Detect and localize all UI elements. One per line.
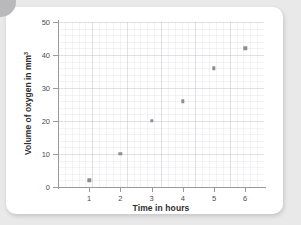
x-tick-3 xyxy=(152,187,153,192)
x-tick-label-6: 6 xyxy=(238,195,252,203)
y-axis-title-text: Volume of oxygen in mm xyxy=(23,55,33,155)
x-tick-5 xyxy=(214,187,215,192)
y-axis-line xyxy=(58,20,59,189)
chart-card: 0 10 20 30 40 50 1 2 3 4 5 6 xyxy=(6,7,283,214)
x-tick-4 xyxy=(183,187,184,192)
x-tick-1 xyxy=(89,187,90,192)
y-tick-0 xyxy=(53,187,58,188)
x-tick-2 xyxy=(120,187,121,192)
x-tick-label-2: 2 xyxy=(113,195,127,203)
y-axis-title: Volume of oxygen in mm3 xyxy=(23,18,34,188)
x-axis-title: Time in hours xyxy=(58,203,264,213)
plot-area xyxy=(58,22,264,187)
x-tick-label-4: 4 xyxy=(176,195,190,203)
page-background: 0 10 20 30 40 50 1 2 3 4 5 6 xyxy=(0,0,301,225)
y-tick-20 xyxy=(53,121,58,122)
scatter-chart: 0 10 20 30 40 50 1 2 3 4 5 6 xyxy=(6,7,283,214)
x-tick-label-5: 5 xyxy=(207,195,221,203)
x-tick-label-1: 1 xyxy=(82,195,96,203)
y-tick-50 xyxy=(53,22,58,23)
y-tick-40 xyxy=(53,55,58,56)
x-tick-6 xyxy=(245,187,246,192)
x-tick-label-3: 3 xyxy=(145,195,159,203)
x-axis-line xyxy=(56,187,266,188)
y-axis-title-exponent: 3 xyxy=(23,52,29,55)
y-tick-30 xyxy=(53,88,58,89)
y-tick-10 xyxy=(53,154,58,155)
